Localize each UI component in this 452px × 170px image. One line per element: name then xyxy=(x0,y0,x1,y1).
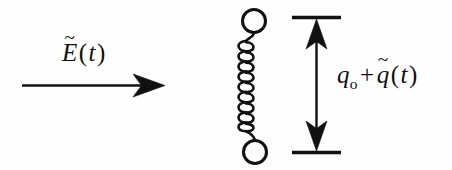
equilibrium-symbol: q xyxy=(337,61,350,88)
plus-operator: + xyxy=(358,61,377,88)
oscillator-group xyxy=(239,10,267,164)
top-spring-connector xyxy=(246,33,254,42)
efield-open-paren: ( xyxy=(77,39,88,66)
physics-figure: Driven harmonic oscillator with applied … xyxy=(0,0,452,170)
displacement-label: qo+~q(t) xyxy=(337,62,419,91)
equilibrium-subscript: o xyxy=(350,75,358,92)
efield-argument: t xyxy=(89,39,96,66)
displacement-close-paren: ) xyxy=(407,61,418,88)
fluctuation-tilde-accent: ~ xyxy=(378,50,389,70)
spring-coil xyxy=(239,41,254,131)
displacement-measure xyxy=(292,18,341,153)
bottom-mass-circle xyxy=(244,141,267,164)
efield-arrow xyxy=(22,74,165,97)
top-mass-circle xyxy=(243,10,266,33)
displacement-open-paren: ( xyxy=(389,61,400,88)
fluctuation-symbol-with-tilde: ~q xyxy=(377,62,390,87)
efield-symbol-with-tilde: ~E xyxy=(62,40,77,65)
efield-tilde-accent: ~ xyxy=(64,28,75,48)
efield-label: ~E(t) xyxy=(62,40,107,65)
efield-close-paren: ) xyxy=(96,39,107,66)
